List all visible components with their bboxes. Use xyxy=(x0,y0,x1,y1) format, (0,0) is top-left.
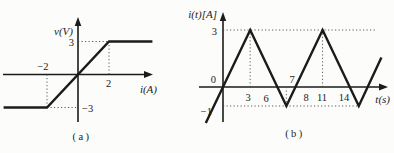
a-y-tick-3: 3 xyxy=(69,37,74,48)
b-x-axis-arrow-icon xyxy=(379,84,388,91)
b-t-tick-6: 6 xyxy=(263,93,268,104)
a-y-tick-neg3: −3 xyxy=(82,103,93,114)
a-x-axis-arrow-icon xyxy=(144,71,153,78)
b-y-tick-neg1: −1 xyxy=(201,106,212,117)
b-origin-tick: 0 xyxy=(211,74,216,85)
caption-b: (b) xyxy=(285,128,305,140)
b-y-tick-3: 3 xyxy=(212,26,217,37)
b-t-tick-11: 11 xyxy=(317,92,327,103)
b-t-tick-3: 3 xyxy=(245,92,250,103)
a-y-axis-arrow-icon xyxy=(75,17,82,26)
b-t-tick-8: 8 xyxy=(303,92,308,103)
panel-a: v(V) 3 −2 2 i(A) −3 (a) xyxy=(3,17,157,143)
panel-b: i(t)[A] 3 0 −1 3 6 7 8 11 14 t(s) (b) xyxy=(188,8,390,140)
b-y-axis-label: i(t)[A] xyxy=(188,8,217,21)
b-t-tick-7: 7 xyxy=(289,74,294,85)
figure-two-panel-plot: v(V) 3 −2 2 i(A) −3 (a) i(t)[A] 3 0 −1 3… xyxy=(0,0,394,153)
b-x-axis-label: t(s) xyxy=(375,93,390,106)
b-t-tick-14: 14 xyxy=(339,92,350,103)
figure-canvas: v(V) 3 −2 2 i(A) −3 (a) i(t)[A] 3 0 −1 3… xyxy=(0,0,394,153)
a-x-axis-label: i(A) xyxy=(140,83,157,96)
a-x-tick-2: 2 xyxy=(106,78,111,89)
a-x-tick-neg2: −2 xyxy=(37,61,48,72)
caption-a: (a) xyxy=(72,131,91,143)
b-y-axis-arrow-icon xyxy=(220,12,226,21)
